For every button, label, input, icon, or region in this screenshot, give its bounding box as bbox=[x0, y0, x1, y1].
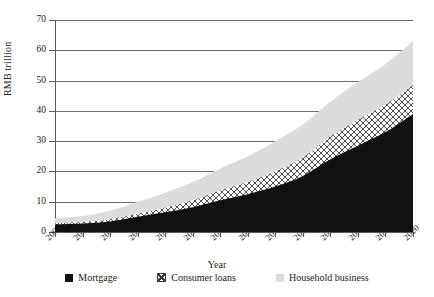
legend-label-mortgage: Mortgage bbox=[78, 272, 117, 283]
y-axis-title: RMB trillion bbox=[2, 42, 13, 96]
black-square-icon bbox=[65, 274, 73, 282]
y-axis-tick-label: 60 bbox=[24, 45, 46, 55]
legend-label-household-business: Household business bbox=[289, 272, 369, 283]
legend-label-consumer-loans: Consumer loans bbox=[171, 272, 236, 283]
y-axis-tick-label: 50 bbox=[24, 76, 46, 86]
gridline bbox=[55, 81, 360, 82]
gridline bbox=[55, 171, 214, 172]
legend-item-household-business: Household business bbox=[276, 272, 369, 283]
gridline bbox=[55, 141, 275, 142]
gridline bbox=[55, 202, 138, 203]
y-axis-tick-label: 20 bbox=[24, 166, 46, 176]
y-axis-line bbox=[55, 20, 56, 233]
y-axis-tick-label: 30 bbox=[24, 136, 46, 146]
y-axis-tick-label: 40 bbox=[24, 106, 46, 116]
legend-item-mortgage: Mortgage bbox=[65, 272, 117, 283]
y-axis-tick-label: 70 bbox=[24, 15, 46, 25]
x-axis-title: Year bbox=[0, 259, 434, 270]
chart-figure: RMB trillion 010203040506070 20072008200… bbox=[0, 0, 434, 297]
area-consumer-loans bbox=[55, 85, 413, 232]
gridline bbox=[55, 50, 402, 51]
legend-item-consumer-loans: Consumer loans bbox=[157, 272, 236, 283]
stacked-area-plot bbox=[0, 0, 434, 297]
chart-legend: Mortgage Consumer loans Household busine… bbox=[0, 272, 434, 283]
y-axis-tick-label: 10 bbox=[24, 197, 46, 207]
x-axis-line bbox=[55, 232, 414, 233]
gridline bbox=[55, 20, 413, 21]
gridline bbox=[55, 111, 319, 112]
gray-square-icon bbox=[276, 274, 284, 282]
area-mortgage bbox=[55, 114, 413, 232]
crosshatch-square-icon bbox=[157, 273, 166, 282]
area-household-business bbox=[55, 41, 413, 232]
